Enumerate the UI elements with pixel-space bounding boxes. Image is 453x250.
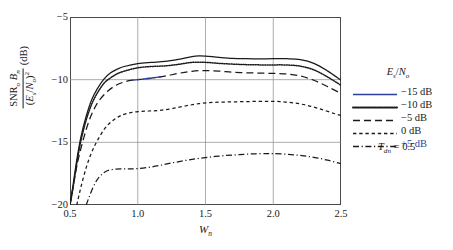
gridlines [70, 17, 341, 205]
legend-item: 0 dB [352, 125, 448, 136]
legend: Es/No −15 dB−10 dB−5 dB0 dB+5 dB [352, 66, 448, 151]
y-axis-denominator: (Es/No)2 [23, 68, 38, 109]
legend-item-label: −15 dB [398, 86, 432, 97]
legend-item: −5 dB [352, 112, 448, 123]
x-tick-label: 1.0 [121, 208, 155, 219]
legend-line-sample [352, 112, 398, 123]
x-tick-label: 2.0 [256, 208, 290, 219]
legend-item: −10 dB [352, 99, 448, 110]
annotation-tdn: Tdn = 0.5 [378, 141, 415, 155]
y-axis-numerator: SNRo Bn [8, 68, 24, 109]
chart-figure: −5−10−15−20 0.51.01.52.02.5 SNRo Bn (Es/… [0, 0, 453, 250]
x-tick-label: 0.5 [53, 208, 87, 219]
y-axis-unit: (dB) [18, 46, 29, 68]
y-tick-label: −15 [42, 137, 68, 148]
legend-item: −15 dB [352, 86, 448, 97]
legend-item-label: −5 dB [398, 112, 427, 123]
legend-line-sample [352, 99, 398, 110]
series-line-3 [77, 101, 341, 205]
legend-item-label: −10 dB [398, 99, 432, 110]
y-tick-label: −5 [42, 12, 68, 23]
x-axis-title: Wn [70, 223, 341, 238]
x-tick-label: 2.5 [324, 208, 358, 219]
x-tick-label: 1.5 [189, 208, 223, 219]
legend-title: Es/No [358, 66, 438, 80]
y-axis-title: SNRo Bn (Es/No)2 (dB) [8, 7, 39, 147]
x-axis-tick-labels: 0.51.01.52.02.5 [0, 208, 453, 222]
y-axis-fraction: SNRo Bn (Es/No)2 [8, 68, 39, 109]
plot-canvas [70, 17, 341, 205]
legend-line-sample [352, 125, 398, 136]
series-line-4 [86, 154, 341, 205]
y-tick-label: −10 [42, 75, 68, 86]
legend-items: −15 dB−10 dB−5 dB0 dB+5 dB [352, 86, 448, 149]
legend-item-label: 0 dB [398, 125, 421, 136]
legend-line-sample [352, 86, 398, 97]
